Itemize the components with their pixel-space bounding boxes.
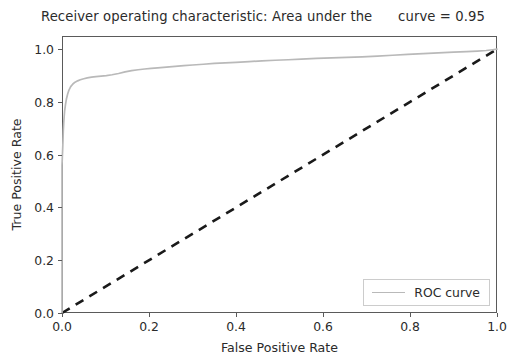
x-tick-label: 1.0: [472, 319, 522, 334]
y-tick-mark: [58, 49, 62, 50]
x-tick-mark: [62, 313, 63, 317]
x-tick-mark: [497, 313, 498, 317]
x-tick-mark: [149, 313, 150, 317]
x-tick-mark: [323, 313, 324, 317]
x-tick-label: 0.0: [37, 319, 87, 334]
chart-title: Receiver operating characteristic: Area …: [0, 9, 526, 24]
x-axis-label: False Positive Rate: [62, 340, 497, 355]
roc-chart-figure: Receiver operating characteristic: Area …: [0, 0, 526, 361]
y-tick-mark: [58, 207, 62, 208]
y-tick-label: 0.8: [12, 94, 54, 109]
x-tick-mark: [236, 313, 237, 317]
y-tick-mark: [58, 155, 62, 156]
y-axis-label: True Positive Rate: [7, 36, 25, 313]
x-tick-label: 0.2: [124, 319, 174, 334]
y-tick-mark: [58, 102, 62, 103]
plot-area: ROC curve: [62, 36, 497, 313]
plot-svg: [62, 36, 497, 313]
legend-line-swatch: [372, 292, 405, 293]
x-tick-label: 0.8: [385, 319, 435, 334]
chart-legend[interactable]: ROC curve: [363, 279, 490, 306]
y-tick-label: 0.6: [12, 147, 54, 162]
legend-label: ROC curve: [414, 285, 480, 300]
chance-diagonal-line: [62, 49, 497, 313]
y-tick-mark: [58, 260, 62, 261]
y-tick-label: 1.0: [12, 42, 54, 57]
y-tick-label: 0.4: [12, 200, 54, 215]
x-tick-label: 0.6: [298, 319, 348, 334]
y-tick-label: 0.2: [12, 253, 54, 268]
x-tick-mark: [410, 313, 411, 317]
x-tick-label: 0.4: [211, 319, 261, 334]
